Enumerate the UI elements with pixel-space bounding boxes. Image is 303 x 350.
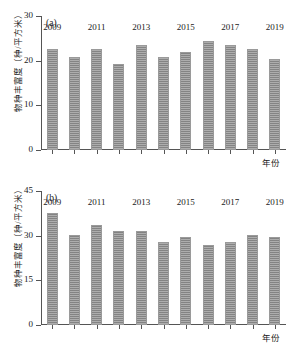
bar-group-b — [41, 191, 286, 325]
x-tick — [230, 150, 231, 154]
bar — [47, 213, 58, 325]
y-tick: 10 — [36, 105, 41, 106]
x-tick — [164, 325, 165, 329]
panel-label-a: (a) — [46, 18, 57, 28]
x-tick — [74, 150, 75, 154]
x-tick — [230, 325, 231, 329]
x-tick-label: 2017 — [221, 22, 239, 32]
x-tick — [164, 150, 165, 154]
chart-panel-a: 物种丰富度（种/平方米） 0102030 2009201120132015201… — [0, 0, 303, 175]
bar — [47, 49, 58, 150]
x-tick — [97, 325, 98, 329]
y-axis-title-b: 物种丰富度（种/平方米） — [11, 171, 23, 301]
bar — [180, 52, 191, 150]
x-tick-label: 2013 — [132, 197, 150, 207]
x-tick-label: 2011 — [88, 197, 106, 207]
y-tick: 30 — [36, 236, 41, 237]
bar-group-a — [41, 16, 286, 150]
chart-panel-b: 物种丰富度（种/平方米） 0153045 2009201120132015201… — [0, 175, 303, 350]
x-tick-label: 2019 — [266, 197, 284, 207]
x-tick-label: 2015 — [177, 197, 195, 207]
plot-area-a: 0102030 200920112013201520172019 — [41, 16, 286, 150]
y-tick-label: 0 — [29, 144, 34, 154]
y-axis-title-a: 物种丰富度（种/平方米） — [11, 0, 23, 126]
bar — [91, 49, 102, 150]
y-tick: 30 — [36, 16, 41, 17]
y-tick: 20 — [36, 61, 41, 62]
y-tick: 45 — [36, 191, 41, 192]
x-tick — [52, 150, 53, 154]
bar — [203, 245, 214, 325]
bar — [136, 45, 147, 150]
x-axis-title-a: 年份 — [262, 156, 280, 168]
x-tick — [186, 150, 187, 154]
bar — [225, 45, 236, 150]
y-tick-label: 0 — [29, 319, 34, 329]
panel-label-b: (b) — [46, 193, 57, 203]
x-tick — [119, 325, 120, 329]
x-tick — [275, 150, 276, 154]
x-axis-title-b: 年份 — [262, 331, 280, 343]
bar — [158, 57, 169, 150]
bar — [247, 235, 258, 325]
x-tick — [275, 325, 276, 329]
bar — [136, 231, 147, 325]
x-tick — [208, 325, 209, 329]
x-tick — [253, 150, 254, 154]
x-tick-label: 2013 — [132, 22, 150, 32]
bar — [69, 57, 80, 150]
plot-area-b: 0153045 200920112013201520172019 — [41, 191, 286, 325]
bar — [91, 225, 102, 325]
bar — [225, 242, 236, 325]
x-tick — [97, 150, 98, 154]
x-tick — [52, 325, 53, 329]
y-tick: 15 — [36, 280, 41, 281]
bar — [69, 235, 80, 325]
bar — [269, 59, 280, 150]
y-tick-label: 45 — [24, 185, 33, 195]
bar — [113, 231, 124, 325]
x-tick-label: 2017 — [221, 197, 239, 207]
x-tick — [141, 325, 142, 329]
y-tick-label: 20 — [24, 55, 33, 65]
bar — [180, 237, 191, 325]
bar — [269, 237, 280, 325]
bar — [203, 41, 214, 150]
y-tick: 0 — [36, 150, 41, 151]
bar — [158, 242, 169, 325]
x-tick — [253, 325, 254, 329]
x-tick — [208, 150, 209, 154]
x-tick-label: 2015 — [177, 22, 195, 32]
y-tick-label: 30 — [24, 10, 33, 20]
y-tick-label: 10 — [24, 99, 33, 109]
x-tick-label: 2011 — [88, 22, 106, 32]
x-tick — [141, 150, 142, 154]
x-tick — [186, 325, 187, 329]
bar — [247, 49, 258, 150]
x-tick — [74, 325, 75, 329]
x-tick — [119, 150, 120, 154]
y-tick-label: 15 — [24, 274, 33, 284]
y-tick-label: 30 — [24, 230, 33, 240]
x-tick-label: 2019 — [266, 22, 284, 32]
bar — [113, 64, 124, 150]
species-richness-figure: 物种丰富度（种/平方米） 0102030 2009201120132015201… — [0, 0, 303, 350]
y-tick: 0 — [36, 325, 41, 326]
